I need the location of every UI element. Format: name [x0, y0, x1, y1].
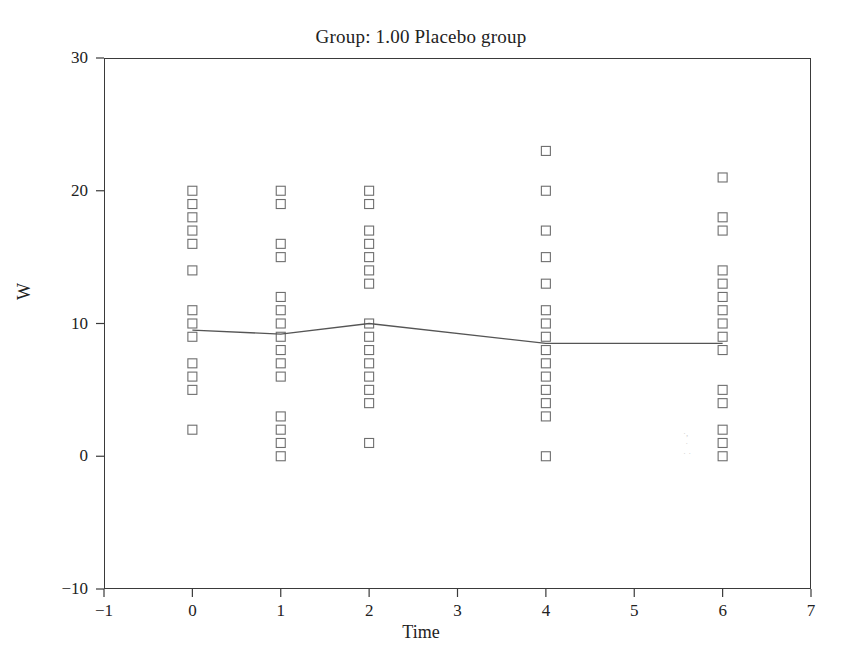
- chart-title: Group: 1.00 Placebo group: [0, 26, 842, 48]
- x-tick-label: 1: [261, 601, 301, 621]
- plot-area: [104, 58, 811, 589]
- x-tick-label: 7: [791, 601, 831, 621]
- x-tick-label: 4: [526, 601, 566, 621]
- x-tick-label: 5: [614, 601, 654, 621]
- x-tick-label: −1: [84, 601, 124, 621]
- y-axis-label: W: [14, 283, 35, 300]
- x-axis-ticks: [104, 589, 811, 597]
- y-tick-label: 0: [28, 446, 88, 466]
- y-tick-label: −10: [28, 579, 88, 599]
- y-tick-label: 20: [28, 181, 88, 201]
- y-axis-ticks: [96, 58, 104, 589]
- x-tick-label: 2: [349, 601, 389, 621]
- y-tick-label: 30: [28, 48, 88, 68]
- x-tick-label: 3: [438, 601, 478, 621]
- x-tick-label: 0: [172, 601, 212, 621]
- x-tick-label: 6: [703, 601, 743, 621]
- scan-artifact: ·, ·· ·: [683, 428, 691, 458]
- chart-figure: Group: 1.00 Placebo group −100102030−101…: [0, 0, 842, 660]
- y-tick-label: 10: [28, 314, 88, 334]
- x-axis-label: Time: [0, 622, 842, 643]
